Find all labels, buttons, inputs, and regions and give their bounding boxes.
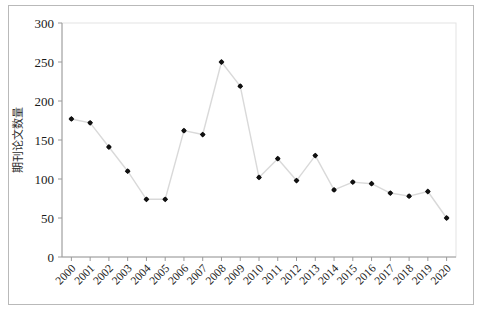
x-axis-tick-labels: 2000200120022003200420052006200720082009…	[53, 262, 453, 287]
x-tick-label-2012: 2012	[278, 262, 303, 287]
x-tick-label-2019: 2019	[410, 262, 435, 287]
x-tick-label-2014: 2014	[316, 262, 341, 287]
data-series-journal-papers	[68, 59, 449, 221]
x-tick-label-2003: 2003	[109, 262, 134, 287]
x-axis: 2000200120022003200420052006200720082009…	[53, 257, 456, 287]
x-tick-label-2005: 2005	[147, 262, 172, 287]
x-tick-label-2015: 2015	[334, 262, 359, 287]
x-tick-label-2013: 2013	[297, 262, 322, 287]
x-tick-label-2008: 2008	[203, 262, 228, 287]
y-axis-title: 期刊论文数量	[11, 107, 24, 173]
x-tick-label-2017: 2017	[372, 262, 397, 287]
data-point-dot-2012	[294, 178, 298, 182]
data-point-dot-2019	[426, 189, 430, 193]
x-tick-label-2009: 2009	[222, 262, 247, 287]
x-tick-label-2011: 2011	[260, 262, 285, 287]
x-tick-label-2007: 2007	[184, 262, 209, 287]
y-tick-label-100: 100	[35, 172, 55, 187]
y-tick-label-0: 0	[48, 250, 55, 265]
y-tick-label-200: 200	[35, 94, 55, 109]
data-point-dot-2007	[201, 132, 205, 136]
x-tick-label-2020: 2020	[428, 262, 453, 287]
x-axis-ticks	[71, 257, 446, 261]
journal-paper-count-line-chart: 050100150200250300 期刊论文数量 20002001200220…	[0, 0, 484, 312]
x-tick-label-2010: 2010	[241, 262, 266, 287]
data-point-dot-2014	[332, 188, 336, 192]
data-point-dot-2000	[69, 117, 73, 121]
data-point-dot-2015	[351, 180, 355, 184]
data-point-dot-2020	[445, 216, 449, 220]
x-tick-label-2016: 2016	[353, 262, 378, 287]
data-point-dot-2013	[313, 154, 317, 158]
data-point-dot-2002	[107, 145, 111, 149]
x-tick-label-2006: 2006	[166, 262, 191, 287]
series-markers	[68, 59, 449, 221]
data-point-dot-2003	[126, 169, 130, 173]
x-tick-label-2004: 2004	[128, 262, 153, 287]
data-point-dot-2010	[257, 175, 261, 179]
data-point-dot-2001	[88, 121, 92, 125]
x-tick-label-2018: 2018	[391, 262, 416, 287]
plot-area-border	[62, 23, 456, 257]
data-point-dot-2017	[388, 191, 392, 195]
data-point-dot-2004	[144, 197, 148, 201]
data-point-dot-2016	[369, 182, 373, 186]
x-tick-label-2000: 2000	[53, 262, 78, 287]
data-point-dot-2008	[219, 60, 223, 64]
x-tick-label-2001: 2001	[72, 262, 97, 287]
y-tick-label-50: 50	[41, 211, 54, 226]
y-tick-label-300: 300	[35, 16, 55, 31]
y-axis-ticks	[58, 23, 62, 257]
x-tick-label-2002: 2002	[91, 262, 116, 287]
data-point-dot-2018	[407, 194, 411, 198]
y-axis-tick-labels: 050100150200250300	[35, 16, 55, 265]
data-point-dot-2005	[163, 197, 167, 201]
data-point-dot-2011	[276, 157, 280, 161]
y-tick-label-250: 250	[35, 55, 55, 70]
data-point-dot-2006	[182, 129, 186, 133]
y-axis: 050100150200250300 期刊论文数量	[11, 16, 62, 265]
data-point-dot-2009	[238, 84, 242, 88]
y-tick-label-150: 150	[35, 133, 55, 148]
